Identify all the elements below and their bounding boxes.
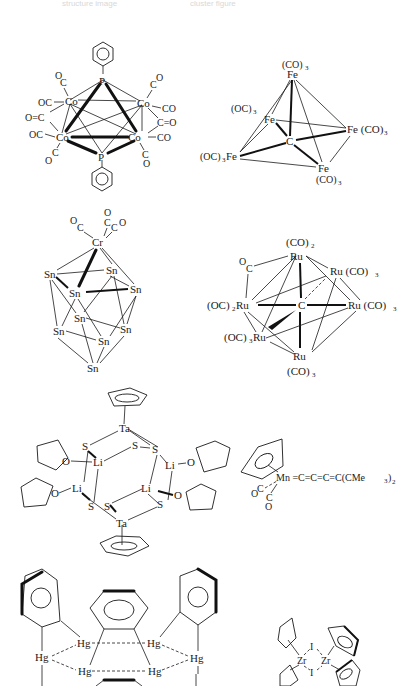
atom-label-li: Li bbox=[141, 482, 151, 494]
cyclopentadienyl-ring-icon bbox=[280, 665, 298, 686]
aromatic-circle-icon bbox=[97, 48, 109, 60]
subscript: 2 bbox=[392, 478, 396, 486]
atom-label-hg: Hg bbox=[148, 665, 162, 677]
atom-label-sn: Sn bbox=[98, 335, 110, 347]
atom-label-fe: Fe (CO) bbox=[347, 123, 384, 136]
subscript: 2 bbox=[311, 242, 315, 250]
atom-label-s: S bbox=[132, 439, 138, 451]
ligand-label: C bbox=[257, 483, 264, 494]
atom-label-zr: Zr bbox=[297, 655, 307, 666]
subscript: 3 bbox=[393, 305, 397, 313]
atom-label-hg: Hg bbox=[35, 651, 49, 663]
atom-label-s: S bbox=[104, 500, 110, 512]
atom-label-li: Li bbox=[165, 459, 175, 471]
atom-label-ru: Ru (CO) bbox=[348, 299, 387, 312]
ligand-label: C bbox=[52, 147, 59, 158]
atom-label-co: Co bbox=[56, 131, 69, 143]
subscript: 3 bbox=[375, 271, 379, 279]
atom-label-c: C bbox=[286, 135, 293, 147]
ligand-label: C bbox=[111, 222, 118, 233]
ligand-label: O bbox=[119, 217, 126, 228]
atom-label-co: Co bbox=[128, 131, 141, 143]
bold-edge bbox=[198, 569, 216, 612]
thf-ring-icon bbox=[186, 484, 216, 510]
atom-label-hg: Hg bbox=[77, 637, 91, 649]
aromatic-circle-icon bbox=[96, 173, 108, 185]
structure-hg-cluster: Hg Hg Hg Hg Hg Hg bbox=[22, 569, 216, 686]
structure-fe5c: (CO) 3 Fe (OC) 3 Fe Fe (CO) 3 C (OC) 3 F… bbox=[200, 59, 388, 187]
atom-label-fe: Fe bbox=[264, 113, 275, 125]
atom-label-i: I bbox=[310, 641, 313, 652]
subscript: 3 bbox=[305, 64, 309, 72]
thf-ring-icon bbox=[21, 478, 53, 507]
structure-tali: Ta Ta S S S S S S Li Li Li Li O O O O bbox=[21, 388, 230, 556]
ligand-label: O bbox=[143, 158, 150, 169]
phenyl-ring-icon bbox=[92, 167, 112, 191]
atom-label-s: S bbox=[157, 498, 163, 510]
ligand-label: C bbox=[104, 217, 111, 228]
ligand-label: OC bbox=[38, 97, 52, 108]
header-faint-text: structure image bbox=[62, 0, 118, 8]
ligand-label: OC bbox=[29, 129, 43, 140]
subscript: 3 bbox=[384, 129, 388, 137]
ligand-label: C=O bbox=[157, 117, 177, 128]
ligand-label: O=C bbox=[25, 112, 45, 123]
aromatic-circle-icon bbox=[188, 587, 208, 607]
atom-label-hg: Hg bbox=[78, 665, 92, 677]
ligand-label: (CO) bbox=[286, 236, 309, 249]
subscript: 3 bbox=[253, 108, 257, 116]
ligand-label: C bbox=[150, 79, 157, 90]
atom-label-sn: Sn bbox=[69, 287, 81, 299]
phenyl-ring-icon bbox=[22, 569, 60, 627]
ligand-label: O bbox=[156, 72, 163, 83]
aromatic-circle-icon bbox=[111, 542, 137, 550]
structure-crsn9: O C O C C O Cr Sn Sn Sn Sn Sn Sn Sn Sn S… bbox=[44, 207, 142, 374]
cyclopentadienyl-ring-icon bbox=[100, 536, 149, 556]
structure-zr-iodide: I I Zr Zr bbox=[278, 618, 360, 686]
ligand-label: CO bbox=[162, 103, 176, 114]
atom-label-ru: Ru (CO) bbox=[330, 265, 369, 278]
atom-label-co: Co bbox=[65, 95, 78, 107]
aromatic-circle-icon bbox=[104, 600, 134, 620]
atom-label-o: O bbox=[174, 489, 182, 501]
atom-label-o: O bbox=[187, 456, 195, 468]
header-faint-text: cluster figure bbox=[190, 0, 236, 8]
atom-label-hg: Hg bbox=[190, 652, 204, 664]
atom-label-s: S bbox=[82, 440, 88, 452]
ligand-label: ) bbox=[388, 472, 391, 484]
phenyl-ring-icon bbox=[90, 591, 148, 629]
atom-label-sn: Sn bbox=[53, 325, 65, 337]
atom-label-zr: Zr bbox=[321, 655, 331, 666]
atom-label-fe: Fe bbox=[287, 68, 298, 80]
atom-label-sn: Sn bbox=[106, 264, 118, 276]
structure-mn-cumulene: Mn =C=C=C=C(CMe 3 ) 2 O C C O bbox=[241, 439, 396, 512]
atom-label-li: Li bbox=[72, 482, 82, 494]
phenyl-ring-icon bbox=[93, 42, 113, 66]
atom-label-sn: Sn bbox=[74, 312, 86, 324]
atom-label-cr: Cr bbox=[92, 236, 103, 248]
ligand-label: O bbox=[45, 155, 52, 166]
atom-label-o: O bbox=[62, 455, 70, 467]
ligand-label: (CO) bbox=[287, 365, 310, 378]
structure-co4p2: P P Co Co Co Co O C OC O=C OC C O O C CO… bbox=[25, 42, 177, 191]
cyclopentadienyl-ring-icon bbox=[108, 388, 147, 406]
atom-label-fe: Fe bbox=[226, 150, 237, 162]
atom-label-hg: Hg bbox=[147, 637, 161, 649]
cyclopentadienyl-ring-icon bbox=[328, 626, 358, 656]
atom-label-c: C bbox=[298, 299, 305, 311]
ligand-label: (OC) bbox=[200, 151, 221, 163]
subscript: 3 bbox=[338, 179, 342, 187]
atom-label-ru: Ru bbox=[236, 299, 249, 311]
atom-label-sn: Sn bbox=[44, 268, 56, 280]
subscript: 3 bbox=[312, 371, 316, 379]
aromatic-circle-icon bbox=[252, 450, 275, 471]
ligand-label: (OC) bbox=[231, 103, 252, 115]
atom-label-p: P bbox=[99, 75, 105, 87]
thf-ring-icon bbox=[196, 441, 230, 472]
ligand-label: (OC) bbox=[224, 331, 247, 344]
atom-label-fe: Fe bbox=[318, 162, 329, 174]
ligand-label: O bbox=[265, 501, 272, 512]
cumulene-chain-label: Mn =C=C=C=C(CMe bbox=[276, 472, 366, 484]
ligand-label: (OC) bbox=[207, 299, 230, 312]
structure-ru6c: (CO) 2 Ru O C Ru (CO) 3 (OC) 2 Ru C Ru (… bbox=[207, 236, 397, 379]
